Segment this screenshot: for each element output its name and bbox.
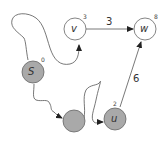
node-x bbox=[63, 110, 85, 132]
node-u-label: u bbox=[111, 114, 117, 124]
node-s-distance: 0 bbox=[41, 57, 45, 63]
node-s-label: S bbox=[28, 67, 34, 77]
edge-v-w-weight: 3 bbox=[106, 17, 112, 27]
graph-canvas bbox=[0, 0, 167, 141]
edge-s-to-x-path bbox=[34, 84, 63, 118]
node-v-distance: 3 bbox=[83, 14, 87, 20]
node-w-label: w bbox=[140, 24, 148, 34]
edge-u-w-weight: 6 bbox=[133, 74, 139, 84]
node-v-label: v bbox=[71, 24, 77, 34]
node-w-distance: 8 bbox=[154, 14, 158, 20]
node-u-distance: 2 bbox=[113, 101, 117, 107]
edge-x-to-u-path bbox=[84, 81, 103, 123]
